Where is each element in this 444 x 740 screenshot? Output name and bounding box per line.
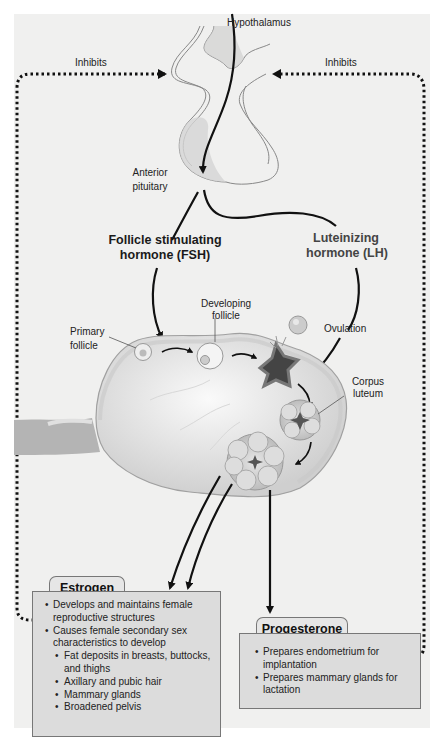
hypothalamus-tissue (204, 26, 244, 68)
estrogen-effect-sub: Broadened pelvis (45, 701, 214, 714)
label-developing-follicle: Developing follicle (198, 298, 254, 322)
label-lh-line1: Luteinizing (306, 231, 386, 246)
progesterone-effect: Prepares endometrium for implantation (255, 646, 414, 672)
corpus-luteum-small (280, 400, 320, 440)
developing-follicle (197, 343, 223, 369)
progesterone-effect: Prepares mammary glands for lactation (255, 672, 414, 698)
label-fsh: Follicle stimulating hormone (FSH) (105, 233, 225, 263)
label-developing-follicle-line1: Developing (198, 298, 254, 310)
progesterone-box: Prepares endometrium for implantation Pr… (239, 633, 421, 709)
estrogen-effect: Develops and maintains female reproducti… (45, 599, 214, 625)
label-lh: Luteinizing hormone (LH) (306, 231, 386, 261)
label-fsh-line2: hormone (FSH) (105, 248, 225, 263)
label-ovulation: Ovulation (324, 323, 366, 335)
label-anterior-pituitary-line1: Anterior (123, 167, 177, 179)
label-primary-follicle-line2: follicle (70, 340, 104, 352)
anterior-pituitary-tissue (179, 117, 226, 182)
estrogen-arrow-2 (188, 484, 232, 588)
estrogen-effect: Causes female secondary sex characterist… (45, 625, 214, 651)
progesterone-effects-list: Prepares endometrium for implantation Pr… (255, 646, 414, 697)
estrogen-effect-sub: Axillary and pubic hair (45, 676, 214, 689)
estrogen-effects-list: Develops and maintains female reproducti… (45, 599, 214, 714)
inhibits-arrowhead-right (272, 69, 281, 79)
label-hypothalamus: Hypothalamus (227, 17, 291, 29)
label-corpus-luteum-line2: luteum (348, 388, 388, 400)
label-anterior-pituitary-line2: pituitary (123, 181, 177, 193)
label-lh-line2: hormone (LH) (306, 246, 386, 261)
lh-arrow (204, 190, 336, 226)
estrogen-effect-sub: Mammary glands (45, 689, 214, 702)
fsh-arrow-lower (153, 268, 162, 338)
estrogen-effect-sub: Fat deposits in breasts, buttocks, and t… (45, 650, 214, 676)
released-ovum (289, 316, 307, 334)
label-anterior-pituitary: Anterior pituitary (123, 167, 177, 193)
lh-arrow-lower (348, 268, 359, 330)
label-primary-follicle: Primary follicle (70, 326, 104, 352)
label-primary-follicle-line1: Primary (70, 326, 104, 338)
inhibits-arrowhead-left (158, 69, 167, 79)
label-inhibits-left: Inhibits (75, 57, 107, 69)
label-corpus-luteum: Corpus luteum (348, 376, 388, 400)
label-corpus-luteum-line1: Corpus (348, 376, 388, 388)
label-fsh-line1: Follicle stimulating (105, 233, 225, 248)
estrogen-box: Develops and maintains female reproducti… (32, 591, 221, 737)
label-developing-follicle-line2: follicle (198, 310, 254, 322)
label-inhibits-right: Inhibits (325, 57, 357, 69)
